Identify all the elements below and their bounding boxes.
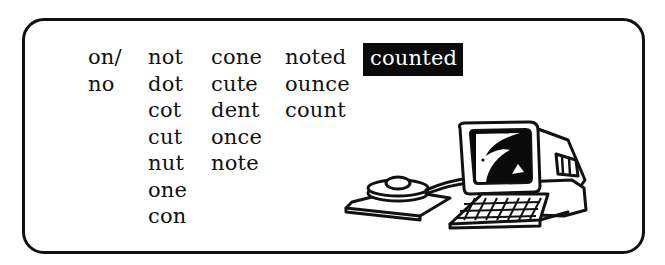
word: no (88, 71, 122, 98)
highlighted-word: counted (363, 43, 463, 76)
word: not (148, 44, 187, 71)
word: one (148, 177, 187, 204)
computer-with-mouse-icon (340, 120, 620, 230)
word-column-4: noted ounce count (285, 44, 350, 124)
word-column-2: not dot cot cut nut one con (148, 44, 187, 230)
word: cute (211, 71, 262, 98)
word-column-3: cone cute dent once note (211, 44, 262, 177)
word-column-1: on/ no (88, 44, 122, 97)
word: note (211, 150, 262, 177)
word: on/ (88, 44, 122, 71)
word: con (148, 203, 187, 230)
word: once (211, 124, 262, 151)
word-column-5: counted (363, 44, 463, 76)
word: noted (285, 44, 350, 71)
word: ounce (285, 71, 350, 98)
word: cone (211, 44, 262, 71)
word: cot (148, 97, 187, 124)
word: dent (211, 97, 262, 124)
word: nut (148, 150, 187, 177)
word: cut (148, 124, 187, 151)
word: dot (148, 71, 187, 98)
